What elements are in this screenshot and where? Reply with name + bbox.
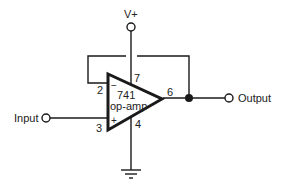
output-terminal[interactable]	[225, 94, 233, 102]
supply-label: V+	[124, 8, 138, 20]
pin-7-label: 7	[134, 72, 140, 84]
input-terminal[interactable]	[42, 114, 50, 122]
junction-dot	[185, 94, 193, 102]
component-type: op-amp	[110, 100, 147, 112]
circuit-diagram: V+ Input Output 741 op-amp − + 2 3 6 7 4	[0, 0, 282, 187]
output-label: Output	[238, 92, 271, 104]
pin-3-label: 3	[96, 122, 102, 134]
pin-4-label: 4	[135, 118, 141, 130]
pin-2-label: 2	[97, 84, 103, 96]
input-label: Input	[14, 112, 38, 124]
vplus-terminal	[127, 23, 135, 31]
pin-6-label: 6	[167, 86, 173, 98]
minus-sign: −	[111, 80, 117, 91]
plus-sign: +	[111, 115, 117, 126]
